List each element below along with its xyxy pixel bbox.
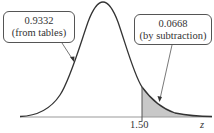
- left-probability-callout: 0.9332 (from tables): [3, 11, 75, 43]
- left-arrowhead-icon: [70, 57, 75, 63]
- right-probability-callout: 0.0668 (by subtraction): [134, 14, 212, 45]
- z-axis-label: z: [200, 119, 204, 130]
- tick-label-1-50: 1.50: [130, 119, 148, 130]
- left-callout-value: 0.9332: [6, 15, 72, 27]
- left-callout-note: (from tables): [6, 27, 72, 39]
- right-callout-note: (by subtraction): [137, 30, 209, 42]
- right-callout-value: 0.0668: [137, 18, 209, 30]
- shaded-tail-region: [142, 87, 212, 117]
- normal-distribution-figure: 0.9332 (from tables) 0.0668 (by subtract…: [0, 0, 214, 133]
- right-callout-arrow: [160, 45, 172, 99]
- right-arrowhead-icon: [158, 96, 163, 102]
